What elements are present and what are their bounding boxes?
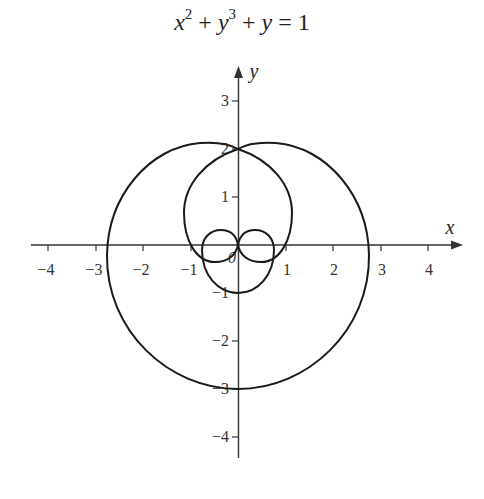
- x-tick-label: −4: [37, 261, 54, 278]
- y-axis-label: y: [248, 60, 259, 83]
- y-tick-label: 3: [221, 92, 229, 109]
- x-tick-label: 3: [378, 261, 386, 278]
- x-tick-label: 2: [330, 261, 338, 278]
- x-tick-label: 4: [425, 261, 433, 278]
- y-axis-arrow-icon: [234, 66, 243, 78]
- x-tick-label: −3: [85, 261, 102, 278]
- x-tick-label: −2: [132, 261, 149, 278]
- x-tick-label: 1: [283, 261, 291, 278]
- y-tick-label: −4: [212, 428, 229, 445]
- x-tick-label: −1: [180, 261, 197, 278]
- x-axis-arrow-icon: [451, 241, 463, 250]
- y-tick-label: −1: [212, 284, 229, 301]
- plot-area: −4 −3 −2 −1 1 2 3 4 3 2 1 −1 −2 −3 −4 0 …: [0, 0, 484, 499]
- x-axis-label: x: [445, 216, 455, 238]
- y-tick-label: 1: [221, 188, 229, 205]
- y-tick-label: −2: [212, 332, 229, 349]
